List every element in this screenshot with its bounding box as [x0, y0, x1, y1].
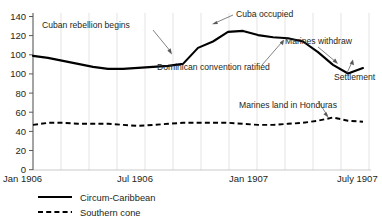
annotation-marines-land-in-honduras: Marines land in Honduras	[239, 100, 337, 118]
annotation-cuban-rebellion-begins: Cuban rebellion begins	[42, 20, 172, 55]
legend: Circum-Caribbean Southern cone	[38, 193, 155, 218]
y-tick-label: 140	[10, 11, 26, 22]
annotation-label: Dominican convention ratified	[157, 62, 270, 72]
annotation-label: Marines withdraw	[285, 36, 353, 46]
x-axis-tick-labels: Jan 1906 Jul 1906 Jan 1907 July 1907	[3, 173, 378, 184]
annotation-marines-withdraw: Marines withdraw	[285, 36, 353, 64]
y-tick-label: 60	[15, 107, 26, 118]
y-tick-label: 100	[10, 68, 26, 79]
y-tick-label: 20	[15, 145, 26, 156]
legend-label-southern-cone: Southern cone	[80, 208, 140, 218]
x-tick-label: Jan 1906	[3, 173, 42, 184]
y-axis-tick-labels: 140 120 100 100 80 60 40 20 0	[10, 11, 26, 175]
series-southern-cone	[33, 118, 363, 126]
line-chart: 140 120 100 100 80 60 40 20 0 Jan 1906 J…	[0, 0, 382, 222]
legend-label-circum-caribbean: Circum-Caribbean	[80, 193, 155, 203]
annotation-dominican-convention-ratified: Dominican convention ratified	[157, 40, 284, 73]
annotation-label: Cuban rebellion begins	[42, 20, 130, 30]
y-axis-ticks	[29, 17, 33, 170]
x-tick-label: Jan 1907	[229, 173, 268, 184]
annotation-label: Cuba occupied	[236, 9, 294, 19]
y-tick-label: 120	[10, 30, 26, 41]
annotation-label: Marines land in Honduras	[239, 100, 337, 110]
annotation-label: Settlement	[334, 72, 376, 82]
y-tick-label: 100	[10, 49, 26, 60]
annotation-cuba-occupied: Cuba occupied	[212, 9, 294, 24]
chart-canvas: 140 120 100 100 80 60 40 20 0 Jan 1906 J…	[0, 0, 382, 222]
x-tick-label: July 1907	[337, 173, 378, 184]
y-tick-label: 40	[15, 126, 26, 137]
y-tick-label: 80	[15, 88, 26, 99]
x-tick-label: Jul 1906	[117, 173, 153, 184]
